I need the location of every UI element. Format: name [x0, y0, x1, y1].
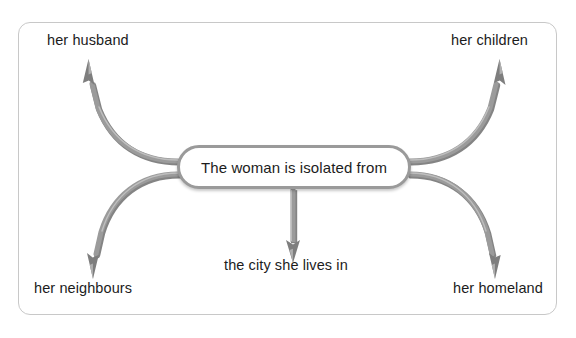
arrow-to-homeland: [410, 173, 501, 279]
arrow-to-neighbours: [87, 173, 179, 279]
branch-label-husband: her husband: [47, 33, 129, 48]
arrow-to-husband: [83, 59, 179, 162]
arrow-to-city: [286, 189, 300, 263]
arrow-children-head-highlight: [500, 59, 503, 75]
center-node[interactable]: The woman is isolated from: [177, 145, 411, 189]
diagram-canvas: The woman is isolated from her husband h…: [0, 0, 576, 338]
center-node-label: The woman is isolated from: [201, 160, 387, 175]
arrow-homeland-head-highlight: [492, 264, 495, 280]
branch-label-children: her children: [451, 33, 528, 48]
branch-label-neighbours: her neighbours: [34, 281, 132, 296]
arrow-husband-head-highlight: [89, 59, 92, 75]
branch-label-city: the city she lives in: [224, 258, 348, 273]
arrow-to-children: [410, 59, 506, 162]
branch-label-homeland: her homeland: [453, 281, 543, 296]
arrow-neighbours-head-highlight: [90, 264, 93, 280]
